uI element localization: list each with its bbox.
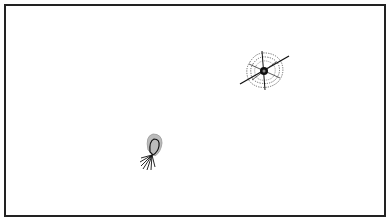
loop-figure-icon (140, 134, 162, 170)
web-figure-icon (240, 51, 289, 90)
drawing-canvas (0, 0, 390, 219)
